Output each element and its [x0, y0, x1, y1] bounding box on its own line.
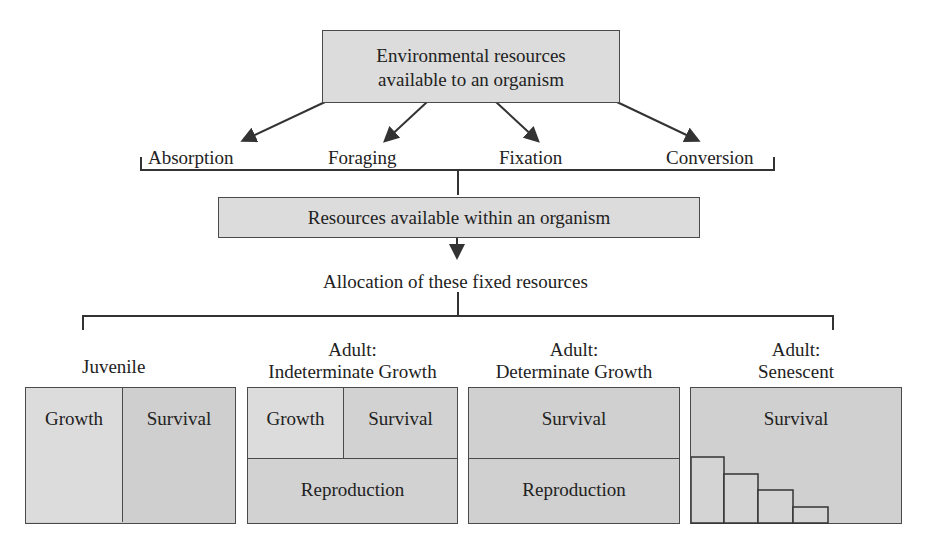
environmental-resources-box: Environmental resources available to an …: [322, 30, 620, 103]
arrow-fixation: [496, 102, 537, 140]
juvenile-allocation-box: Growth Survival: [25, 387, 236, 524]
stage-title-determinate-line1: Adult:: [468, 339, 680, 361]
senescent-reproduction-steps: [691, 388, 903, 525]
indeterminate-growth-label: Growth: [248, 408, 343, 430]
environmental-resources-line1: Environmental resources: [323, 45, 619, 67]
indeterminate-survival-cell: Survival: [344, 388, 457, 459]
mode-fixation: Fixation: [499, 147, 562, 169]
arrow-conversion: [617, 102, 697, 140]
determinate-survival-label: Survival: [469, 408, 679, 430]
environmental-resources-line2: available to an organism: [323, 69, 619, 91]
stage-title-indeterminate-line2: Indeterminate Growth: [247, 361, 458, 383]
stage-title-determinate-line2: Determinate Growth: [468, 361, 680, 383]
juvenile-growth-cell: Growth: [26, 388, 123, 522]
arrow-absorption: [244, 102, 325, 140]
allocation-brace: [83, 316, 833, 330]
indeterminate-allocation-box: Growth Survival Reproduction: [247, 387, 458, 524]
determinate-survival-cell: Survival: [469, 388, 679, 459]
stage-title-senescent-line1: Adult:: [690, 339, 902, 361]
internal-resources-box: Resources available within an organism: [218, 197, 700, 238]
mode-foraging: Foraging: [328, 147, 397, 169]
internal-resources-label: Resources available within an organism: [219, 207, 699, 229]
stage-title-senescent-line2: Senescent: [690, 361, 902, 383]
determinate-reproduction-label: Reproduction: [469, 479, 679, 501]
stage-title-indeterminate-line1: Adult:: [247, 339, 458, 361]
indeterminate-growth-cell: Growth: [248, 388, 344, 459]
determinate-allocation-box: Survival Reproduction: [468, 387, 680, 524]
arrow-foraging: [386, 102, 427, 140]
stage-title-juvenile: Juvenile: [82, 356, 145, 378]
indeterminate-reproduction-label: Reproduction: [248, 479, 457, 501]
mode-conversion: Conversion: [666, 147, 754, 169]
indeterminate-survival-label: Survival: [344, 408, 457, 430]
mode-absorption: Absorption: [148, 147, 234, 169]
allocation-label: Allocation of these fixed resources: [323, 271, 588, 293]
juvenile-survival-label: Survival: [123, 408, 235, 430]
juvenile-growth-label: Growth: [26, 408, 122, 430]
senescent-allocation-box: Survival: [690, 387, 902, 524]
